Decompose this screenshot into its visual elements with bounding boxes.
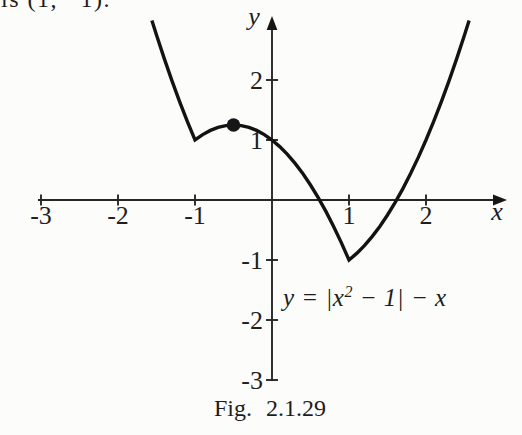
y-tick-label: 2 xyxy=(250,66,263,95)
figure-caption-prefix: Fig. xyxy=(214,395,252,421)
marked-point-dot xyxy=(227,118,241,132)
figure-caption: Fig.2.1.29 xyxy=(214,395,326,422)
y-tick-label: -2 xyxy=(241,306,263,335)
x-tick-label: -2 xyxy=(107,201,129,230)
x-tick-label: 1 xyxy=(343,201,356,230)
y-axis-arrow xyxy=(267,16,278,30)
figure-caption-number: 2.1.29 xyxy=(266,395,326,421)
equation-rhs: − 1| − x xyxy=(353,284,447,311)
x-tick-label: -1 xyxy=(184,201,206,230)
y-axis-label: y xyxy=(243,2,265,32)
textbook-figure-page: is (1, −1). -3-2-11221-1-2-3 y x y = |x2… xyxy=(0,0,522,435)
y-tick-label: -3 xyxy=(241,366,263,395)
graph-canvas: -3-2-11221-1-2-3 xyxy=(0,0,522,435)
x-tick-label: 2 xyxy=(420,201,433,230)
curve-equation-label: y = |x2 − 1| − x xyxy=(283,283,447,312)
equation-lhs: y = |x xyxy=(283,284,344,311)
x-tick-label: -3 xyxy=(30,201,52,230)
x-axis-label: x xyxy=(485,197,509,227)
equation-exponent: 2 xyxy=(344,283,353,300)
y-tick-label: -1 xyxy=(241,246,263,275)
